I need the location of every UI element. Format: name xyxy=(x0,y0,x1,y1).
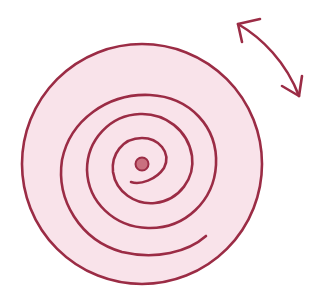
double-headed-rotate-arrow-icon xyxy=(238,19,302,96)
center-dot-icon xyxy=(136,158,149,171)
spiral-illustration xyxy=(0,0,322,290)
